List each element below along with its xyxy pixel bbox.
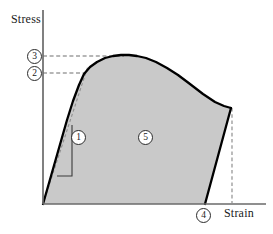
stress-strain-figure: Stress Strain 1 2 3 4 5: [0, 0, 273, 234]
marker-elastic-modulus: 1: [71, 130, 86, 145]
marker-yield-strength: 2: [27, 66, 42, 81]
y-axis-label: Stress: [11, 12, 41, 27]
marker-ultimate-strength: 3: [27, 49, 42, 64]
marker-toughness-area: 5: [138, 130, 153, 145]
x-axis-label: Strain: [224, 206, 254, 221]
stress-strain-plot: [0, 0, 273, 234]
marker-fracture-strain: 4: [196, 208, 211, 223]
toughness-shaded-area: [43, 55, 231, 204]
